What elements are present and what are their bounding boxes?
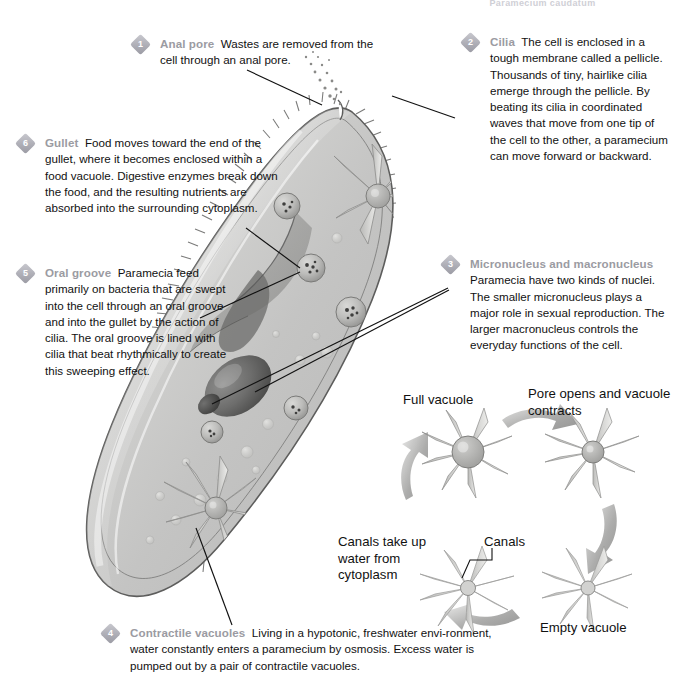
leader-macronucleus [255,290,449,392]
callout-badge-1: 1 [130,34,151,55]
leader-micronucleus [212,288,448,404]
callout-heading-6: Gullet [45,136,78,149]
callout-heading-1: Anal pore [160,37,214,50]
callout-heading-3: Micronucleus and macronucleus [470,257,653,270]
callout-heading-5: Oral groove [45,266,111,279]
callout-nuclei: 3 Micronucleus and macronucleus Parameci… [443,256,665,354]
callout-badge-3: 3 [440,254,461,275]
leader-cilia [392,96,455,118]
callout-body-3: Paramecia have two kinds of nuclei. The … [470,273,664,351]
callout-body-2: The cell is enclosed in a tough membrane… [490,35,668,162]
callout-anal-pore: 1 Anal pore Wastes are removed from the … [133,36,383,69]
leader-gullet [246,228,300,268]
cycle-label-empty-vacuole: Empty vacuole [540,620,675,637]
callout-heading-4: Contractile vacuoles [130,626,245,639]
callout-body-6: Food moves toward the end of the gullet,… [45,136,278,214]
cycle-label-canals: Canals [484,534,554,551]
callout-gullet: 6 Gullet Food moves toward the end of th… [18,135,278,216]
cycle-label-canals-uptake: Canals take up water from cytoplasm [338,534,448,584]
callout-heading-2: Cilia [490,35,515,48]
callout-badge-6: 6 [15,133,36,154]
running-head: Paramecium caudatum [410,0,675,8]
callout-oral-groove: 5 Oral groove Paramecia feed primarily o… [18,265,233,379]
leader-anal-pore [247,70,322,105]
callout-badge-2: 2 [460,32,481,53]
callout-badge-4: 4 [100,623,121,644]
diagram-canvas: Paramecium caudatum [0,0,675,685]
leader-contractile [196,528,232,625]
callout-badge-5: 5 [15,263,36,284]
callout-contractile-vacuoles: 4 Contractile vacuoles Living in a hypot… [103,625,503,674]
cycle-label-full-vacuole: Full vacuole [403,392,483,409]
callout-cilia: 2 Cilia The cell is enclosed in a tough … [463,34,668,164]
cycle-label-pore-opens: Pore opens and vacuole contracts [528,386,675,419]
callout-body-5: Paramecia feed primarily on bacteria tha… [45,266,226,377]
